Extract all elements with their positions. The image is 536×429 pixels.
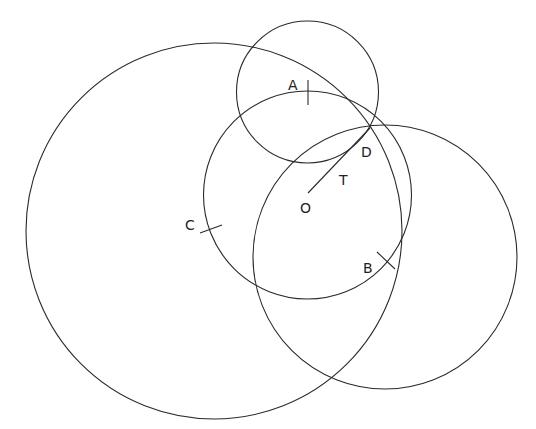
geometry-diagram: A D T O C B bbox=[0, 0, 536, 429]
label-o: O bbox=[300, 200, 311, 216]
tick-mark-c bbox=[200, 225, 222, 233]
large-left-circle bbox=[26, 43, 402, 419]
label-d: D bbox=[361, 144, 372, 160]
center-o-circle bbox=[204, 91, 412, 299]
right-circle bbox=[253, 125, 517, 389]
label-t: T bbox=[338, 172, 348, 188]
label-c: C bbox=[185, 217, 195, 233]
label-b: B bbox=[363, 260, 373, 276]
label-a: A bbox=[288, 77, 298, 93]
